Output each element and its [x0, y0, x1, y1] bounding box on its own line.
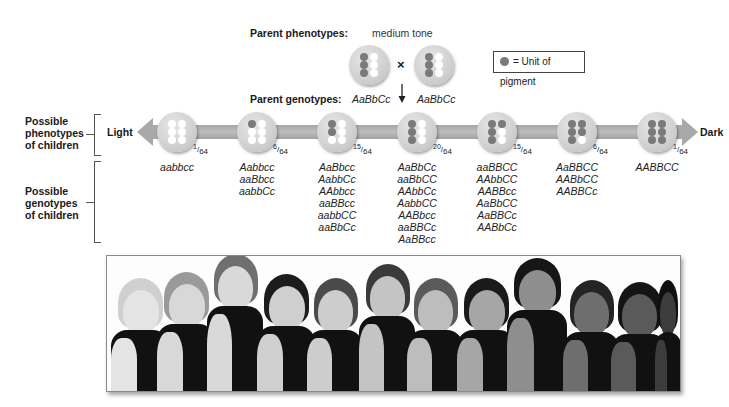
genotype-item: aaBBCC	[457, 161, 537, 173]
empty-dot-icon	[178, 128, 186, 136]
genotype-item: AaBBcc	[377, 233, 457, 245]
pigment-dot-icon	[568, 136, 576, 144]
probability-fraction: 6/64	[593, 143, 608, 156]
genotype-list: AaBbCcaaBbCCAAbbCcAabbCCAABbccaaBBCcAaBB…	[377, 161, 457, 245]
genotype-item: AaBBCC	[537, 161, 617, 173]
pigment-dot-icon	[488, 120, 496, 128]
pigment-dot-icon	[500, 57, 509, 66]
child-figure	[307, 255, 363, 391]
genotype-item: AABbcc	[377, 209, 457, 221]
genotype-item: AAbbcc	[297, 185, 377, 197]
probability-fraction: 15/64	[353, 143, 372, 156]
pigment-dot-icon	[408, 120, 416, 128]
genotypes-row-label: Possible genotypes of children	[25, 185, 79, 221]
pigment-dot-icon	[658, 128, 666, 136]
empty-dot-icon	[370, 53, 378, 61]
parent2-pigment-disc	[414, 45, 454, 85]
parent1-genotype: AaBbCc	[352, 93, 391, 105]
empty-dot-icon	[178, 120, 186, 128]
child-face	[370, 276, 405, 320]
genotype-item: Aabbcc	[217, 161, 297, 173]
genotype-list: aabbcc	[137, 161, 217, 173]
phenotypes-row-label: Possible phenotypes of children	[25, 115, 84, 151]
bracket-tick	[86, 134, 94, 135]
empty-dot-icon	[578, 136, 586, 144]
pigment-dot-icon	[568, 128, 576, 136]
pigment-dot-icon	[425, 53, 433, 61]
empty-dot-icon	[258, 128, 266, 136]
empty-dot-icon	[168, 136, 176, 144]
pigment-dot-icon	[425, 61, 433, 69]
phenotype-disc-6	[637, 112, 677, 152]
genotype-list: AaBbccAabbCcAAbbccaaBBccaabbCCaaBbCc	[297, 161, 377, 233]
child-face	[622, 294, 657, 338]
genotype-item: aaBbCC	[377, 173, 457, 185]
pigment-dot-icon	[488, 136, 496, 144]
empty-dot-icon	[258, 120, 266, 128]
pigment-dot-icon	[408, 136, 416, 144]
genotype-item: AabbCc	[297, 173, 377, 185]
genotype-item: AABBCC	[617, 161, 697, 173]
probability-fraction: 1/64	[193, 143, 208, 156]
genotype-list: aaBBCCAAbbCCAABBccAaBbCCAaBBCcAABbCc	[457, 161, 537, 233]
child-face	[169, 284, 205, 328]
genotype-item: AABbCc	[457, 221, 537, 233]
child-face	[269, 286, 305, 330]
parent-phenotypes-label: Parent phenotypes:	[250, 27, 348, 39]
child-figure	[507, 255, 567, 391]
pigment-dot-icon	[648, 120, 656, 128]
pigment-dot-icon	[488, 128, 496, 136]
child-shoulder	[407, 338, 432, 391]
dark-label: Dark	[700, 126, 723, 138]
genotype-item: AaBbCC	[457, 197, 537, 209]
pigment-dot-icon	[568, 120, 576, 128]
empty-dot-icon	[258, 136, 266, 144]
phenotype-disc-3	[397, 112, 437, 152]
genotype-item: AabbCC	[377, 197, 457, 209]
pigment-dot-icon	[425, 69, 433, 77]
empty-dot-icon	[328, 136, 336, 144]
pigment-dot-icon	[360, 61, 368, 69]
row-label-line: Possible	[25, 115, 84, 127]
child-shoulder	[207, 314, 232, 391]
row-label-line: of children	[25, 209, 79, 221]
phenotypes-bracket	[94, 114, 101, 156]
pigment-dot-icon	[648, 128, 656, 136]
empty-dot-icon	[168, 120, 176, 128]
phenotype-disc-0	[157, 112, 197, 152]
parent2-genotype: AaBbCc	[417, 93, 456, 105]
pigment-dot-icon	[328, 128, 336, 136]
empty-dot-icon	[168, 128, 176, 136]
pigment-dot-icon	[658, 136, 666, 144]
empty-dot-icon	[498, 128, 506, 136]
child-face	[574, 292, 609, 336]
child-figure	[207, 255, 263, 391]
empty-dot-icon	[338, 136, 346, 144]
genotype-item: AaBbcc	[297, 161, 377, 173]
empty-dot-icon	[248, 136, 256, 144]
child-face	[660, 292, 676, 336]
pigment-dot-icon	[648, 136, 656, 144]
genotype-item: AABBCc	[537, 185, 617, 197]
empty-dot-icon	[338, 128, 346, 136]
arrow-down-icon	[396, 84, 408, 104]
genotype-item: aaBBcc	[297, 197, 377, 209]
parent1-pigment-disc	[349, 45, 389, 85]
empty-dot-icon	[248, 128, 256, 136]
empty-dot-icon	[178, 136, 186, 144]
genotype-item: aabbcc	[137, 161, 217, 173]
probability-fraction: 15/64	[513, 143, 532, 156]
empty-dot-icon	[418, 136, 426, 144]
genotype-item: AaBbCc	[377, 161, 457, 173]
genotype-item: aabbCC	[297, 209, 377, 221]
genotypes-bracket	[94, 161, 101, 243]
child-face	[218, 266, 253, 310]
phenotype-disc-2	[317, 112, 357, 152]
row-label-line: genotypes	[25, 197, 79, 209]
genotype-item: AABBcc	[457, 185, 537, 197]
bracket-tick	[86, 202, 94, 203]
pigment-dot-icon	[408, 128, 416, 136]
child-face	[123, 290, 159, 334]
genotype-list: AaBBCCAABbCCAABBCc	[537, 161, 617, 197]
row-label-line: phenotypes	[25, 127, 84, 139]
